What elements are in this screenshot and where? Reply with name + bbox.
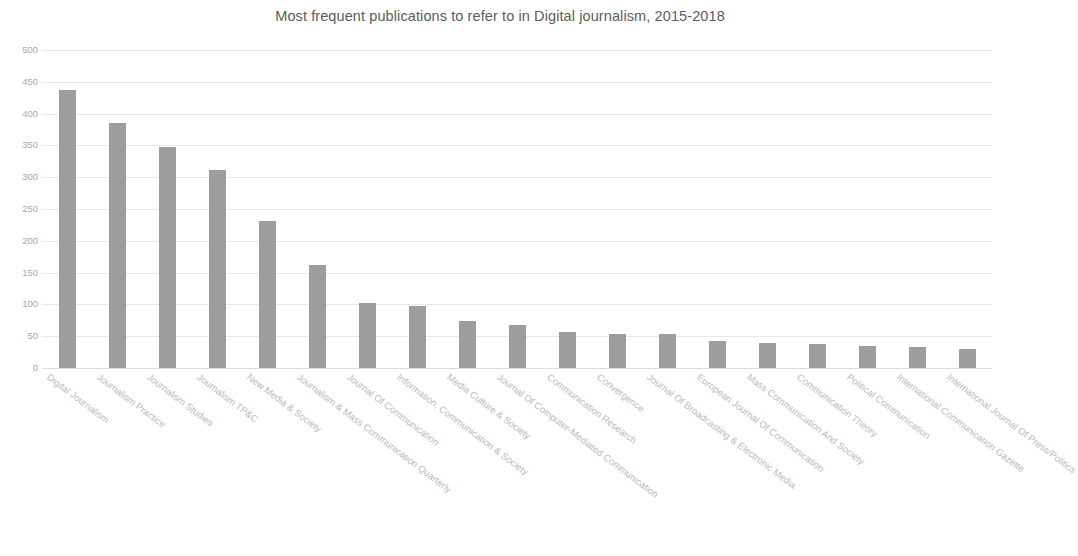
bar <box>909 347 926 368</box>
y-axis-tick-label: 450 <box>4 77 38 87</box>
bar <box>109 123 126 368</box>
y-axis-tick-label: 250 <box>4 204 38 214</box>
bar <box>809 344 826 368</box>
bar <box>609 334 626 368</box>
bar <box>159 147 176 368</box>
bar <box>459 321 476 368</box>
bar <box>659 334 676 368</box>
x-axis-tick-label: Communication Research <box>545 372 638 445</box>
bar <box>59 90 76 368</box>
x-axis-tick-label: Journal Of Communication <box>345 372 441 447</box>
chart-title: Most frequent publications to refer to i… <box>0 8 1000 24</box>
bar <box>709 341 726 368</box>
y-axis-tick-label: 100 <box>4 300 38 310</box>
x-axis-tick-label: Convergence <box>595 372 646 414</box>
y-axis-tick-label: 0 <box>4 363 38 373</box>
bar <box>209 170 226 368</box>
bar <box>559 332 576 368</box>
bar <box>509 325 526 368</box>
bar <box>309 265 326 368</box>
bar <box>859 346 876 368</box>
y-axis-tick-label: 350 <box>4 141 38 151</box>
x-axis-labels: Digital JournalismJournalism PracticeJou… <box>42 372 992 552</box>
x-axis-tick-label: Media Culture & Society <box>445 372 532 441</box>
bar <box>259 221 276 368</box>
y-axis-tick-label: 150 <box>4 268 38 278</box>
y-axis: 050100150200250300350400450500 <box>0 50 38 368</box>
gridline-0 <box>42 368 992 369</box>
y-axis-tick-label: 400 <box>4 109 38 119</box>
bar <box>359 303 376 369</box>
y-axis-tick-label: 500 <box>4 45 38 55</box>
y-axis-tick-label: 50 <box>4 331 38 341</box>
y-axis-tick-label: 200 <box>4 236 38 246</box>
bar <box>759 343 776 368</box>
x-axis-tick-label: Political Communication <box>845 372 932 441</box>
y-axis-tick-label: 300 <box>4 172 38 182</box>
bar <box>409 306 426 368</box>
bars-layer <box>42 50 992 368</box>
bar <box>959 349 976 368</box>
